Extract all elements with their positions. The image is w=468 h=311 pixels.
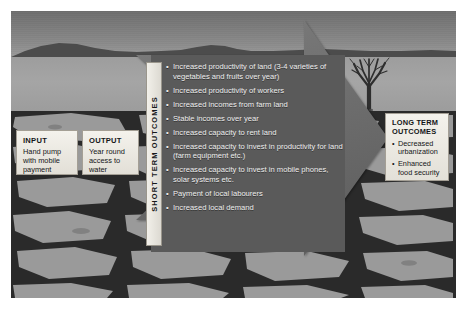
- long-term-outcomes-list: Decreased urbanization Enhanced food sec…: [392, 140, 444, 178]
- list-item: Increased capacity to invest in producti…: [166, 142, 346, 161]
- short-term-outcomes-list: Increased productivity of land (3-4 vari…: [166, 62, 346, 217]
- input-box-detail: Hand pump with mobile payment: [23, 147, 72, 175]
- list-item: Increased capacity to rent land: [166, 128, 346, 138]
- list-item: Enhanced food security: [392, 160, 444, 177]
- list-item: Increased productivity of workers: [166, 86, 346, 96]
- list-item: Decreased urbanization: [392, 140, 444, 157]
- short-term-outcomes-label: SHORT TERM OUTCOMES: [146, 62, 162, 246]
- short-term-outcomes-label-text: SHORT TERM OUTCOMES: [150, 96, 159, 211]
- list-item: Increased productivity of land (3-4 vari…: [166, 62, 346, 81]
- list-item: Stable incomes over year: [166, 114, 346, 124]
- input-box-title: INPUT: [23, 136, 72, 145]
- list-item: Increased incomes from farm land: [166, 100, 346, 110]
- list-item: Increased local demand: [166, 203, 346, 213]
- output-box-detail: Year round access to water: [89, 147, 133, 175]
- long-term-outcomes-box: LONG TERM OUTCOMES Decreased urbanizatio…: [385, 113, 449, 181]
- output-box: OUTPUT Year round access to water: [82, 130, 139, 175]
- list-item: Increased capacity to invest in mobile p…: [166, 165, 346, 184]
- long-term-outcomes-title: LONG TERM OUTCOMES: [392, 119, 444, 137]
- output-box-title: OUTPUT: [89, 136, 133, 145]
- list-item: Payment of local labourers: [166, 189, 346, 199]
- input-box: INPUT Hand pump with mobile payment: [16, 130, 78, 175]
- diagram-canvas: SHORT TERM OUTCOMES Increased productivi…: [0, 0, 468, 311]
